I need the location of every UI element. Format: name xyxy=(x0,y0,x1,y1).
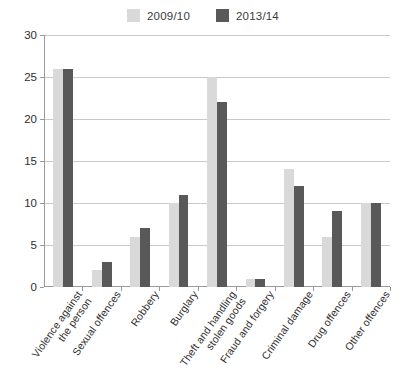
bar-group xyxy=(282,35,306,287)
legend-item-2009-10: 2009/10 xyxy=(127,9,190,22)
y-tick-label: 25 xyxy=(24,71,37,83)
legend-item-2013-14: 2013/14 xyxy=(216,9,279,22)
bar-group xyxy=(90,35,114,287)
y-tick-label: 0 xyxy=(31,281,37,293)
bar-series-2009-10 xyxy=(130,237,140,287)
bar-series-2013-14 xyxy=(255,279,265,287)
bar-group xyxy=(128,35,152,287)
legend-swatch-2013-14 xyxy=(216,9,229,22)
bar-series-2013-14 xyxy=(332,211,342,287)
bar-group xyxy=(320,35,344,287)
bar-group xyxy=(167,35,191,287)
bar-group xyxy=(51,35,75,287)
x-axis-label: Robbery xyxy=(129,289,162,329)
bar-series-2009-10 xyxy=(284,169,294,287)
y-tick-label: 5 xyxy=(31,239,37,251)
y-tick-label: 15 xyxy=(24,155,37,167)
bar-series-2009-10 xyxy=(53,69,63,287)
x-axis-label-line: Robbery xyxy=(129,289,162,329)
bar-series-2013-14 xyxy=(179,195,189,287)
x-axis-label: Burglary xyxy=(168,289,200,328)
x-tick-mark xyxy=(390,287,391,291)
bar-series-2009-10 xyxy=(246,279,256,287)
bar-series-2009-10 xyxy=(92,270,102,287)
bar-series-2013-14 xyxy=(217,102,227,287)
y-tick-label: 10 xyxy=(24,197,37,209)
legend-label-2009-10: 2009/10 xyxy=(147,10,190,22)
bar-group xyxy=(205,35,229,287)
bar-series-2009-10 xyxy=(322,237,332,287)
bar-group xyxy=(244,35,268,287)
bar-group xyxy=(359,35,383,287)
y-tick-label: 20 xyxy=(24,113,37,125)
y-tick-label: 30 xyxy=(24,29,37,41)
bar-series-2013-14 xyxy=(140,228,150,287)
bar-chart: 2009/10 2013/14 051015202530 Violence ag… xyxy=(0,0,406,384)
bar-series-2013-14 xyxy=(102,262,112,287)
bar-series-2009-10 xyxy=(169,203,179,287)
bar-series-container xyxy=(44,35,390,287)
x-axis-labels: Violence againstthe personSexual offence… xyxy=(44,289,390,384)
legend-swatch-2009-10 xyxy=(127,9,140,22)
x-axis-label-line: Burglary xyxy=(168,289,200,328)
chart-legend: 2009/10 2013/14 xyxy=(0,9,406,22)
y-tick-mark xyxy=(40,287,44,288)
bar-series-2009-10 xyxy=(361,203,371,287)
bar-series-2009-10 xyxy=(207,77,217,287)
bar-series-2013-14 xyxy=(294,186,304,287)
legend-label-2013-14: 2013/14 xyxy=(236,10,279,22)
plot-area: 051015202530 xyxy=(44,35,390,287)
bar-series-2013-14 xyxy=(63,69,73,287)
bar-series-2013-14 xyxy=(371,203,381,287)
